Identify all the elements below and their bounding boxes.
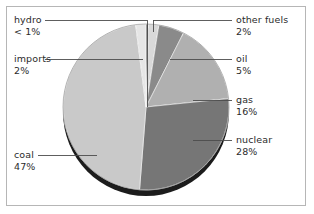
callout-coal-value: 47% (14, 161, 35, 173)
callout-coal: coal 47% (14, 149, 35, 172)
callout-imports-label: imports (14, 53, 51, 65)
callout-imports-value: 2% (14, 65, 51, 77)
callout-coal-label: coal (14, 149, 35, 161)
callout-other-fuels: other fuels 2% (236, 14, 288, 37)
callout-other-fuels-value: 2% (236, 26, 288, 38)
callout-gas-label: gas (236, 94, 257, 106)
callout-oil-value: 5% (236, 65, 251, 77)
callout-nuclear-label: nuclear (236, 134, 272, 146)
callout-gas-value: 16% (236, 106, 257, 118)
callout-oil-label: oil (236, 53, 251, 65)
callout-hydro: hydro < 1% (14, 14, 42, 37)
callout-other-fuels-label: other fuels (236, 14, 288, 26)
callout-hydro-label: hydro (14, 14, 42, 26)
callout-hydro-value: < 1% (14, 26, 42, 38)
callout-imports: imports 2% (14, 53, 51, 76)
callout-gas: gas 16% (236, 94, 257, 117)
callout-oil: oil 5% (236, 53, 251, 76)
pie-slice-nuclear[interactable] (140, 99, 229, 190)
callout-nuclear: nuclear 28% (236, 134, 272, 157)
callout-nuclear-value: 28% (236, 146, 272, 158)
pie-slice-coal[interactable] (63, 25, 146, 190)
pie-chart-figure: hydro < 1% imports 2% coal 47% other fue… (0, 0, 314, 214)
